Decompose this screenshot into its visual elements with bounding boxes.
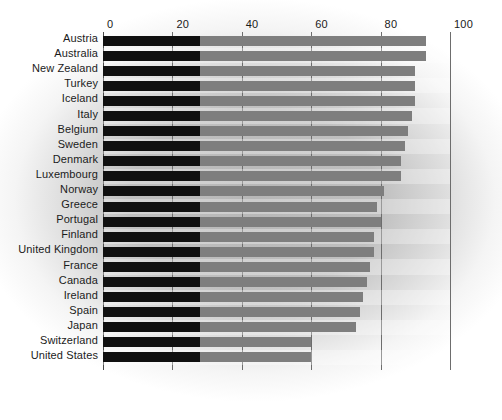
bar-row[interactable] <box>103 320 450 335</box>
x-tick-label: 80 <box>385 18 398 30</box>
category-axis-labels: AustriaAustraliaNew ZealandTurkeyIceland… <box>0 33 103 373</box>
category-label: Austria <box>63 32 98 45</box>
category-label: Italy <box>77 108 98 121</box>
bar-highlight-segment <box>103 156 200 166</box>
category-label: Switzerland <box>40 334 98 347</box>
bar-highlight-segment <box>103 247 200 257</box>
category-label: Norway <box>60 183 98 196</box>
bar-row[interactable] <box>103 244 450 259</box>
plot-area: 020406080100 <box>103 18 450 373</box>
bar-highlight-segment <box>103 51 200 61</box>
bar-row[interactable] <box>103 275 450 290</box>
bar-highlight-segment <box>103 126 200 136</box>
category-label: Australia <box>54 47 98 60</box>
category-label: Belgium <box>58 123 98 136</box>
bar-row[interactable] <box>103 169 450 184</box>
x-tick-label: 60 <box>315 18 328 30</box>
bar-highlight-segment <box>103 322 200 332</box>
bar-row[interactable] <box>103 199 450 214</box>
category-label: Japan <box>68 319 98 332</box>
bar-highlight-segment <box>103 307 200 317</box>
chart-container: AustriaAustraliaNew ZealandTurkeyIceland… <box>0 0 502 420</box>
bar-row[interactable] <box>103 305 450 320</box>
bar-row[interactable] <box>103 290 450 305</box>
bar-highlight-segment <box>103 337 200 347</box>
category-label: Canada <box>59 274 98 287</box>
category-label: Ireland <box>64 289 98 302</box>
category-label: Spain <box>69 304 98 317</box>
bar-row[interactable] <box>103 139 450 154</box>
category-label: Greece <box>61 198 98 211</box>
bar-row[interactable] <box>103 184 450 199</box>
category-label: New Zealand <box>32 62 98 75</box>
bar-row[interactable] <box>103 259 450 274</box>
bar-highlight-segment <box>103 292 200 302</box>
category-label: Portugal <box>56 213 98 226</box>
bar-row[interactable] <box>103 350 450 365</box>
category-label: Sweden <box>58 138 98 151</box>
bar-highlight-segment <box>103 232 200 242</box>
bar-row[interactable] <box>103 229 450 244</box>
bar-highlight-segment <box>103 66 200 76</box>
bar-row[interactable] <box>103 78 450 93</box>
bar-highlight-segment <box>103 96 200 106</box>
x-tick-label: 100 <box>454 18 473 30</box>
category-label: Luxembourg <box>36 168 98 181</box>
bar-row[interactable] <box>103 93 450 108</box>
category-label: Turkey <box>64 77 98 90</box>
bar-highlight-segment <box>103 277 200 287</box>
bar-highlight-segment <box>103 202 200 212</box>
category-label: France <box>63 259 98 272</box>
bar-highlight-segment <box>103 36 200 46</box>
x-tick-label: 20 <box>176 18 189 30</box>
category-label: Iceland <box>62 92 98 105</box>
bar-row[interactable] <box>103 33 450 48</box>
x-tick-label: 40 <box>246 18 259 30</box>
category-label: United States <box>31 349 98 362</box>
bar-highlight-segment <box>103 81 200 91</box>
bar-highlight-segment <box>103 171 200 181</box>
bar-row[interactable] <box>103 108 450 123</box>
x-tick-label: 0 <box>107 18 113 30</box>
bar-row[interactable] <box>103 63 450 78</box>
category-label: United Kingdom <box>18 243 98 256</box>
bar-highlight-segment <box>103 111 200 121</box>
category-label: Finland <box>61 228 98 241</box>
bar-row[interactable] <box>103 214 450 229</box>
category-label: Denmark <box>53 153 98 166</box>
bar-highlight-segment <box>103 141 200 151</box>
bar-highlight-segment <box>103 217 200 227</box>
bar-series <box>103 33 450 365</box>
bar-highlight-segment <box>103 352 200 362</box>
bar-highlight-segment <box>103 262 200 272</box>
bar-row[interactable] <box>103 335 450 350</box>
bar-highlight-segment <box>103 186 200 196</box>
bar-row[interactable] <box>103 124 450 139</box>
bar-row[interactable] <box>103 154 450 169</box>
gridline <box>450 32 451 370</box>
bar-row[interactable] <box>103 48 450 63</box>
